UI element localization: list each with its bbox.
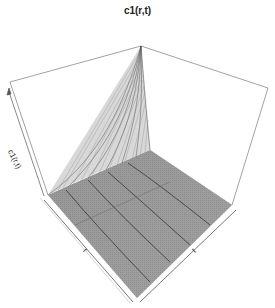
surface-plot (0, 0, 275, 308)
axis-arrows (7, 88, 44, 196)
